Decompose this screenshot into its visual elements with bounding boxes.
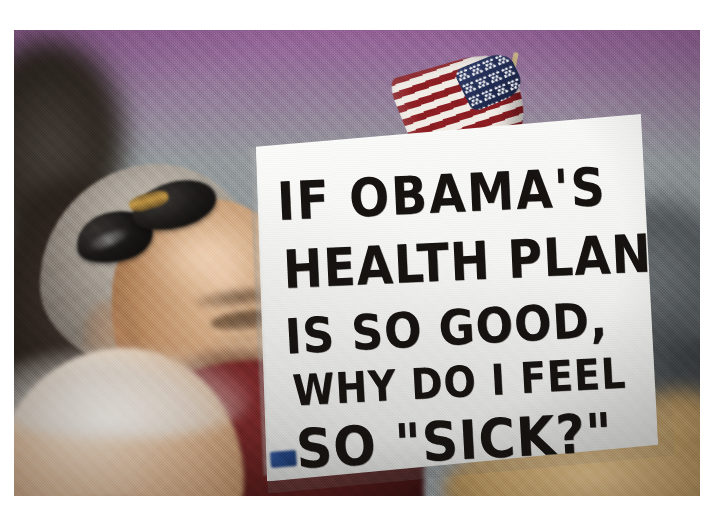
foreground-hairline [14, 346, 250, 438]
image-canvas: IF OBAMA'S HEALTH PLAN IS SO gOOD, WHY D… [0, 0, 728, 523]
placard-handwriting: IF OBAMA'S HEALTH PLAN IS SO gOOD, WHY D… [257, 125, 656, 466]
blue-tape [270, 450, 297, 468]
placard-line-5: SO "SICK?" [295, 401, 615, 481]
placard-line-1: IF OBAMA'S [276, 156, 608, 232]
protest-placard: IF OBAMA'S HEALTH PLAN IS SO gOOD, WHY D… [245, 102, 675, 494]
photograph: IF OBAMA'S HEALTH PLAN IS SO gOOD, WHY D… [14, 30, 700, 496]
placard-line-2: HEALTH PLAN [282, 222, 653, 300]
